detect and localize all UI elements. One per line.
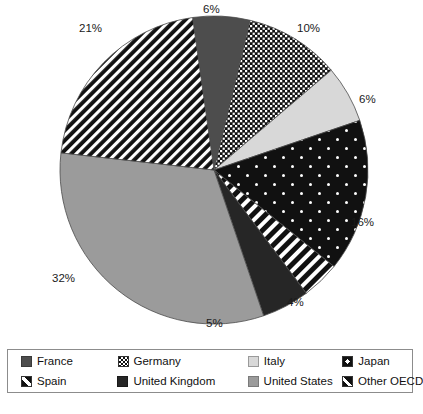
pie-slices-group bbox=[60, 16, 368, 324]
pie-slice-other-oecd bbox=[61, 18, 214, 171]
legend-label-other-oecd: Other OECD bbox=[358, 375, 423, 388]
legend-label-spain: Spain bbox=[37, 375, 66, 388]
legend-item-japan: Japan bbox=[342, 351, 412, 372]
legend-item-united-states: United States bbox=[247, 371, 342, 392]
legend-swatch-spain-icon bbox=[21, 376, 32, 387]
legend-swatch-other-oecd-icon bbox=[342, 376, 353, 387]
legend-row: France Germany Italy Japan bbox=[8, 351, 412, 372]
pie-plot-area: 6% 10% 6% 16% 4% 5% 32% 21% bbox=[0, 0, 422, 340]
legend-item-united-kingdom: United Kingdom bbox=[115, 371, 246, 392]
slice-label-france: 6% bbox=[203, 3, 220, 15]
legend-swatch-germany-icon bbox=[118, 356, 129, 367]
legend-swatch-united-states-icon bbox=[248, 376, 259, 387]
legend-swatch-japan-icon bbox=[342, 356, 353, 367]
legend-item-spain: Spain bbox=[8, 371, 115, 392]
pie-svg bbox=[0, 0, 422, 340]
legend-item-france: France bbox=[8, 351, 116, 372]
legend-label-japan: Japan bbox=[358, 355, 389, 368]
legend-swatch-italy-icon bbox=[248, 356, 259, 367]
legend-item-italy: Italy bbox=[247, 351, 343, 372]
slice-label-united-kingdom: 5% bbox=[206, 317, 223, 329]
chart-legend: France Germany Italy Japan Spain U bbox=[7, 349, 413, 393]
legend-label-united-kingdom: United Kingdom bbox=[133, 375, 215, 388]
slice-label-germany: 10% bbox=[297, 22, 320, 34]
slice-label-spain: 4% bbox=[287, 296, 304, 308]
slice-label-japan: 16% bbox=[351, 216, 374, 228]
legend-label-united-states: United States bbox=[264, 375, 333, 388]
legend-swatch-france-icon bbox=[21, 356, 32, 367]
slice-label-italy: 6% bbox=[359, 93, 376, 105]
legend-label-germany: Germany bbox=[134, 355, 181, 368]
legend-item-germany: Germany bbox=[116, 351, 247, 372]
slice-label-other-oecd: 21% bbox=[79, 22, 102, 34]
legend-row: Spain United Kingdom United States Other… bbox=[8, 371, 412, 392]
legend-label-france: France bbox=[37, 355, 73, 368]
legend-swatch-united-kingdom-icon bbox=[117, 376, 128, 387]
legend-label-italy: Italy bbox=[264, 355, 285, 368]
legend-item-other-oecd: Other OECD bbox=[342, 371, 412, 392]
slice-label-united-states: 32% bbox=[52, 272, 75, 284]
